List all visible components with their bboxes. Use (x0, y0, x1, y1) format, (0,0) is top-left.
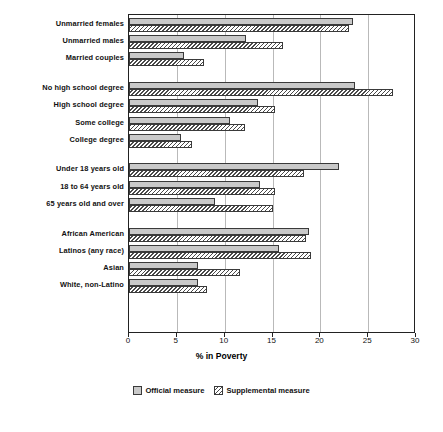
category-label: High school degree (54, 101, 124, 109)
plot-area (128, 14, 415, 333)
bar-official (129, 117, 230, 124)
legend-label-supplemental: Supplemental measure (226, 386, 309, 395)
bar-official (129, 18, 353, 25)
bar-official (129, 245, 279, 252)
bar-official (129, 99, 258, 106)
official-swatch-icon (133, 386, 142, 395)
bar-supplemental (129, 59, 204, 66)
bar-supplemental (129, 42, 283, 49)
bar-official (129, 181, 260, 188)
bar-official (129, 35, 246, 42)
x-axis-tick-labels: 051015202530 (0, 336, 443, 348)
category-label: Under 18 years old (56, 165, 124, 173)
bar-official (129, 52, 184, 59)
bar-official (129, 228, 309, 235)
category-label: 18 to 64 years old (60, 183, 124, 191)
x-axis-label: % in Poverty (0, 351, 443, 361)
x-tick-label-5: 5 (161, 336, 191, 345)
x-tick-label-10: 10 (209, 336, 239, 345)
bar-supplemental (129, 269, 240, 276)
category-label: Married couples (66, 54, 124, 62)
category-label: White, non-Latino (60, 281, 124, 289)
x-tick-label-25: 25 (352, 336, 382, 345)
bar-supplemental (129, 170, 304, 177)
chart-legend: Official measure Supplemental measure (0, 386, 443, 395)
bar-supplemental (129, 141, 192, 148)
bar-official (129, 163, 339, 170)
bar-official (129, 198, 215, 205)
category-label: College degree (70, 136, 124, 144)
bar-supplemental (129, 252, 311, 259)
category-label: Some college (75, 119, 124, 127)
bar-official (129, 279, 198, 286)
category-label-axis: Unmarried femalesUnmarried malesMarried … (0, 14, 124, 333)
supplemental-swatch-icon (214, 386, 223, 395)
legend-item-supplemental[interactable]: Supplemental measure (214, 386, 309, 395)
x-tick-label-30: 30 (400, 336, 430, 345)
category-label: Unmarried females (56, 20, 124, 28)
category-label: No high school degree (42, 84, 124, 92)
bar-supplemental (129, 25, 349, 32)
legend-label-official: Official measure (145, 386, 204, 395)
bar-official (129, 134, 181, 141)
bar-supplemental (129, 235, 306, 242)
x-tick-label-0: 0 (113, 336, 143, 345)
bar-supplemental (129, 106, 275, 113)
x-tick-label-15: 15 (257, 336, 287, 345)
bar-supplemental (129, 89, 393, 96)
category-label: Unmarried males (63, 37, 124, 45)
bar-official (129, 82, 355, 89)
category-label: African American (61, 230, 124, 238)
bar-supplemental (129, 286, 207, 293)
poverty-measure-bar-chart: Unmarried femalesUnmarried malesMarried … (0, 0, 443, 432)
bar-series-container (129, 15, 414, 332)
category-label: 65 years old and over (46, 200, 124, 208)
bar-official (129, 262, 198, 269)
legend-item-official[interactable]: Official measure (133, 386, 204, 395)
x-tick-label-20: 20 (304, 336, 334, 345)
category-label: Asian (103, 264, 124, 272)
bar-supplemental (129, 124, 245, 131)
bar-supplemental (129, 188, 275, 195)
bar-supplemental (129, 205, 273, 212)
category-label: Latinos (any race) (59, 247, 124, 255)
